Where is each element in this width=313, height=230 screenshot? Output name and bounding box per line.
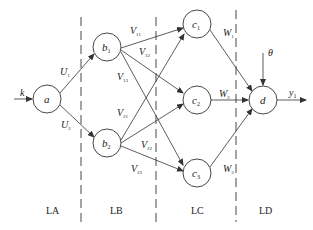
edge-c3-d	[210, 109, 252, 167]
node-c3	[183, 159, 211, 187]
node-d-label: d	[260, 94, 266, 106]
neural-network-diagram: a b1 b2 c1 c2 c3 d k θ y1 U1 U2 V11 V12 …	[0, 0, 313, 230]
diagram-svg: a b1 b2 c1 c2 c3 d k θ y1 U1 U2 V11 V12 …	[0, 0, 313, 230]
weight-U1: U1	[60, 66, 70, 78]
node-a-label: a	[44, 93, 50, 105]
weight-V21: V21	[117, 107, 129, 119]
node-c2	[183, 86, 211, 114]
layer-label-LB: LB	[110, 205, 123, 216]
weight-W3: W3	[223, 163, 234, 175]
layer-label-LD: LD	[259, 205, 272, 216]
input-label: k	[20, 87, 25, 98]
weight-V13: V13	[117, 71, 129, 83]
weight-V23: V23	[131, 163, 143, 175]
output-label: y1	[288, 87, 296, 99]
weight-W2: W2	[219, 88, 230, 100]
weight-V12: V12	[139, 46, 151, 58]
edge-b2-c2	[121, 104, 183, 143]
weight-U2: U2	[61, 119, 71, 131]
node-c1	[183, 10, 211, 38]
weight-V22: V22	[141, 139, 153, 151]
layer-label-LC: LC	[191, 205, 204, 216]
edge-b1-c2	[121, 50, 183, 93]
bias-label: θ	[268, 47, 273, 58]
edge-c1-d	[210, 30, 252, 91]
weight-W1: W1	[223, 27, 234, 39]
layer-label-LA: LA	[46, 205, 60, 216]
weight-V11: V11	[130, 25, 141, 37]
